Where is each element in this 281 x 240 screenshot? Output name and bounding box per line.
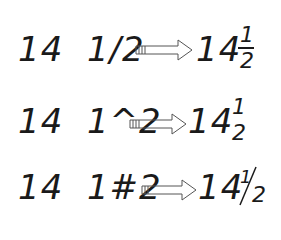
output-whole-row-1: 14 [196, 32, 241, 66]
output-whole-row-2: 14 [188, 104, 233, 138]
denominator-row-1: 2 [240, 50, 254, 72]
hollow-right-arrow-icon [128, 112, 188, 136]
hollow-right-arrow-icon [140, 178, 198, 202]
input-row-1: 14 1/2 [18, 32, 145, 66]
hollow-right-arrow-icon [134, 38, 194, 62]
denominator-row-3: 2 [252, 184, 266, 206]
denominator-row-2: 2 [232, 122, 246, 144]
numerator-row-1: 1 [240, 24, 254, 46]
numerator-row-2: 1 [232, 96, 246, 118]
